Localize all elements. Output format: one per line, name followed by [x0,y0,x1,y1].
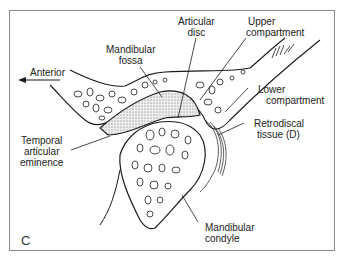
label-line: disc [178,27,215,38]
label-mandibular-condyle: Mandibular condyle [205,222,254,244]
label-line: Mandibular [106,44,155,55]
label-retrodiscal-tissue: Retrodiscal tissue (D) [254,118,304,140]
label-upper-compartment: Upper compartment [246,16,304,38]
label-line: tissue (D) [254,129,304,140]
label-line: eminence [20,157,63,168]
label-temporal-articular-eminence: Temporal articular eminence [20,135,63,168]
label-mandibular-fossa: Mandibular fossa [106,44,155,66]
panel-letter: C [21,233,30,248]
label-line: Lower [258,84,324,95]
label-line: condyle [205,233,254,244]
label-line: Mandibular [205,222,254,233]
label-lower-compartment: Lower compartment [258,84,324,106]
label-line: compartment [258,95,324,106]
label-line: Articular [178,16,215,27]
mandibular-condyle [100,122,205,229]
retrodiscal-tissue [200,120,226,192]
label-line: Retrodiscal [254,118,304,129]
label-articular-disc: Articular disc [178,16,215,38]
articular-disc [100,91,200,135]
label-line: Upper [246,16,304,27]
label-line: articular [20,146,63,157]
label-line: Temporal [20,135,63,146]
label-line: compartment [246,27,304,38]
label-anterior: Anterior [30,67,65,78]
label-line: fossa [106,55,155,66]
